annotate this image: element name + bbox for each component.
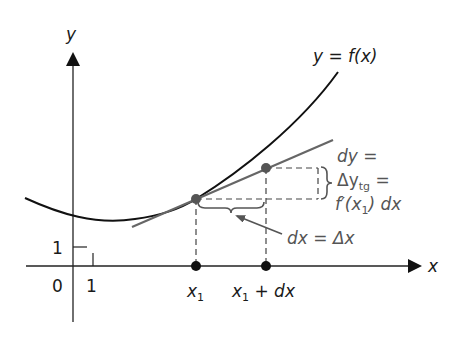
x1-label: x1 bbox=[186, 281, 204, 304]
x1-plus-dx-label: x1 + dx bbox=[231, 281, 296, 304]
axis-point-x1 bbox=[191, 261, 201, 271]
unit-ticks: 1 0 1 bbox=[52, 238, 97, 296]
x-unit-label: 1 bbox=[86, 276, 97, 296]
x-axis-label: x bbox=[427, 256, 439, 276]
dx-label: dx = Δx bbox=[287, 228, 356, 248]
curve-label: y = f(x) bbox=[312, 46, 377, 66]
y-axis-label: y bbox=[65, 24, 77, 44]
point-q bbox=[261, 163, 271, 173]
differential-diagram: y x 1 0 1 y = f(x) x1 x1 + dx dy = bbox=[0, 0, 453, 340]
dy-annotation: dy = Δytg = f′(x1) dx bbox=[335, 146, 402, 217]
dashed-guides bbox=[196, 168, 318, 266]
dy-line-3: f′(x1) dx bbox=[335, 194, 402, 217]
dy-brace-icon bbox=[321, 167, 332, 199]
function-curve bbox=[25, 72, 338, 221]
y-axis: y bbox=[65, 24, 80, 322]
x-axis: x bbox=[26, 256, 439, 276]
axis-point-x1dx bbox=[261, 261, 271, 271]
y-axis-arrow-icon bbox=[66, 52, 80, 66]
dy-line-2: Δytg = bbox=[337, 170, 390, 193]
dx-pointer-arrow bbox=[237, 216, 282, 234]
x-axis-arrow-icon bbox=[408, 259, 422, 273]
y-unit-label: 1 bbox=[52, 238, 63, 258]
tangent-line bbox=[132, 140, 333, 227]
point-p bbox=[191, 194, 201, 204]
origin-label: 0 bbox=[52, 276, 63, 296]
dy-line-1: dy = bbox=[337, 146, 378, 166]
dx-brace-icon bbox=[198, 202, 264, 213]
